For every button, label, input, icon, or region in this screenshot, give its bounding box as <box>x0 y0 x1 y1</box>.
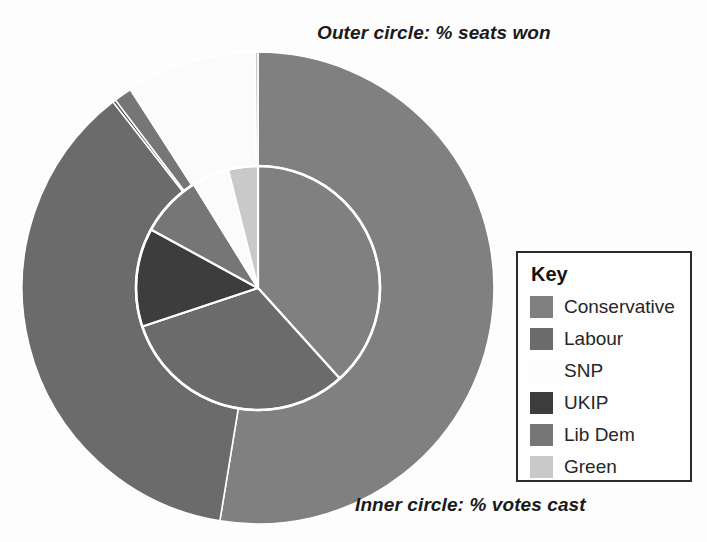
legend-swatch-icon <box>530 328 553 350</box>
legend-item-label: UKIP <box>564 392 608 414</box>
legend-swatch-icon <box>530 456 553 478</box>
legend-item-snp[interactable]: SNP <box>530 355 690 387</box>
legend-item-labour[interactable]: Labour <box>530 323 690 355</box>
legend-swatch-icon <box>530 296 553 318</box>
inner-pie-votes-cast <box>136 166 380 410</box>
legend-item-conservative[interactable]: Conservative <box>530 291 690 323</box>
legend-item-label: Conservative <box>564 296 675 318</box>
legend-item-green[interactable]: Green <box>530 451 690 483</box>
legend-title: Key <box>531 262 690 286</box>
legend-box: Key ConservativeLabourSNPUKIPLib DemGree… <box>516 251 692 482</box>
legend-item-label: SNP <box>564 360 603 382</box>
legend-item-ukip[interactable]: UKIP <box>530 387 690 419</box>
legend-swatch-icon <box>530 392 553 414</box>
legend-swatch-icon <box>530 424 553 446</box>
legend-swatch-icon <box>530 360 553 382</box>
chart-page: Outer circle: % seats won Inner circle: … <box>0 0 707 542</box>
outer-circle-caption: Outer circle: % seats won <box>317 22 551 44</box>
legend-item-label: Labour <box>564 328 623 350</box>
legend-item-label: Lib Dem <box>564 424 635 446</box>
legend-item-lib-dem[interactable]: Lib Dem <box>530 419 690 451</box>
legend-rows: ConservativeLabourSNPUKIPLib DemGreen <box>530 291 690 483</box>
inner-circle-caption: Inner circle: % votes cast <box>355 494 586 516</box>
legend-item-label: Green <box>564 456 617 478</box>
